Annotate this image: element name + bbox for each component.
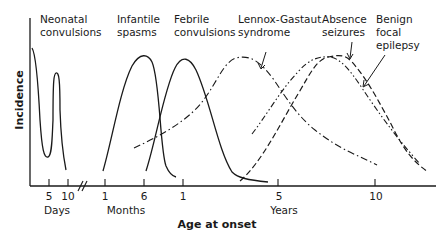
series-infantile-spasms — [103, 56, 176, 177]
label-absence-1: Absence — [322, 13, 367, 25]
label-infantile-2: spasms — [117, 26, 157, 38]
series-lennox-gastaut-syndrome — [134, 57, 377, 165]
label-lennox-2: syndrome — [238, 26, 290, 38]
label-febrile-1: Febrile — [174, 13, 209, 25]
series-neonatal-convulsions — [32, 48, 66, 170]
x-ticks — [49, 179, 375, 186]
label-benign-2: focal — [376, 26, 401, 38]
label-infantile-1: Infantile — [117, 13, 160, 25]
tick-label-years-1: 1 — [180, 190, 187, 202]
label-lennox-1: Lennox-Gastaut — [238, 13, 321, 25]
label-neonatal-1: Neonatal — [40, 13, 87, 25]
unit-label-years: Years — [269, 204, 298, 216]
unit-label-days: Days — [44, 204, 70, 216]
tick-label-years-10: 10 — [369, 190, 382, 202]
tick-label-months-6: 6 — [141, 190, 148, 202]
tick-label-days-5: 5 — [46, 190, 53, 202]
label-benign-3: epilepsy — [376, 39, 420, 51]
arrow-lennox-icon — [258, 52, 266, 69]
label-benign-1: Benign — [376, 13, 413, 25]
label-neonatal-2: convulsions — [40, 26, 102, 38]
unit-label-months: Months — [107, 204, 145, 216]
tick-label-years-5: 5 — [276, 190, 283, 202]
x-axis-title: Age at onset — [178, 218, 257, 231]
series-benign-focal-epilepsy — [252, 57, 420, 164]
arrow-absence-icon — [347, 42, 353, 59]
series-absence-seizures — [240, 56, 428, 181]
tick-label-days-10: 10 — [61, 190, 74, 202]
arrow-benign-icon — [363, 55, 385, 87]
y-axis-title: Incidence — [13, 70, 26, 129]
tick-label-months-1: 1 — [102, 190, 109, 202]
label-febrile-2: convulsions — [174, 26, 236, 38]
age-at-onset-chart: 5 10 1 6 1 5 10 Days Months Years Age at… — [0, 0, 446, 240]
series-febrile-convulsions — [146, 59, 268, 182]
label-absence-2: seizures — [322, 26, 365, 38]
